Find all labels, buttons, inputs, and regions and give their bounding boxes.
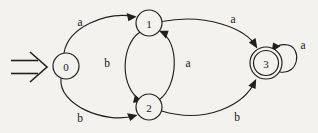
edge-label-1-to-2: b <box>104 57 110 69</box>
edge-label-3-self-loop: a <box>300 39 305 51</box>
state-node-1[interactable]: 1 <box>136 10 162 36</box>
state-diagram-canvas: 0 1 2 3 a b b a a b a <box>0 0 318 133</box>
edge-0-to-1 <box>64 13 137 53</box>
edge-label-1-to-3: a <box>230 13 235 25</box>
state-1-label: 1 <box>146 18 152 30</box>
edge-0-to-2 <box>61 79 138 122</box>
arrowhead-0-to-1 <box>127 13 137 21</box>
edge-2-to-1 <box>159 31 174 100</box>
edge-2-to-3 <box>162 79 257 115</box>
edge-label-2-to-1: a <box>185 57 190 69</box>
edge-label-2-to-3: b <box>234 111 240 123</box>
state-node-0[interactable]: 0 <box>53 53 79 79</box>
edge-label-0-to-2: b <box>77 112 83 124</box>
state-node-2[interactable]: 2 <box>136 94 162 120</box>
state-2-label: 2 <box>146 102 152 114</box>
state-0-label: 0 <box>63 61 69 73</box>
edge-label-0-to-1: a <box>77 16 82 28</box>
edge-1-to-3 <box>162 19 257 48</box>
start-arrow <box>11 52 47 82</box>
state-node-3-accepting[interactable]: 3 <box>250 47 282 79</box>
state-3-label: 3 <box>263 58 269 70</box>
edge-1-to-2 <box>125 33 143 103</box>
